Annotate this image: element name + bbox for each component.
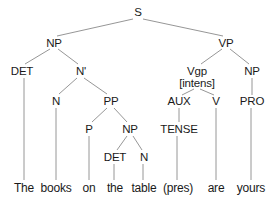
node-vp: VP <box>219 37 234 49</box>
word-are: are <box>208 182 225 194</box>
node-v: V <box>212 95 219 107</box>
node-tense: TENSE <box>160 123 197 135</box>
node-pro: PRO <box>240 95 264 107</box>
word-books: books <box>40 182 71 194</box>
edge-s-vp <box>143 19 223 36</box>
node-np-object: NP <box>244 65 260 77</box>
edge-vp-np <box>230 49 249 64</box>
edge-np2-det <box>117 136 127 150</box>
node-n-bar: N' <box>76 65 86 77</box>
tree-edges <box>0 0 272 203</box>
word-yours: yours <box>237 182 265 194</box>
edge-nbar-n <box>59 78 77 94</box>
word-the: The <box>14 182 34 194</box>
edge-s-np <box>57 19 133 36</box>
node-aux: AUX <box>167 95 190 107</box>
node-pp: PP <box>104 95 119 107</box>
edge-np-det <box>25 49 50 64</box>
node-det: DET <box>11 65 33 77</box>
word-table: table <box>131 182 156 194</box>
node-n: N <box>52 95 60 107</box>
edge-np-nbar <box>58 49 78 64</box>
node-np: NP <box>46 37 62 49</box>
node-vgp: Vgp <box>187 65 207 77</box>
edge-pp-p <box>92 108 107 122</box>
edge-vp-vgp <box>201 49 222 64</box>
node-np-inner: NP <box>122 123 138 135</box>
word-pres: (pres) <box>163 182 193 194</box>
edge-pp-np <box>114 108 127 122</box>
node-p: P <box>85 123 92 135</box>
word-the-2: the <box>107 182 123 194</box>
edge-np2-n <box>133 136 142 150</box>
edge-nbar-pp <box>84 78 107 94</box>
node-vgp-feature: [intens] <box>179 77 214 89</box>
word-on: on <box>83 182 96 194</box>
node-n-inner: N <box>140 151 148 163</box>
node-s: S <box>134 6 141 18</box>
node-det-inner: DET <box>104 151 126 163</box>
